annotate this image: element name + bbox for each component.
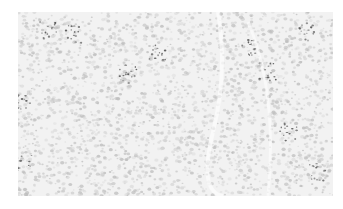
histology-image (18, 12, 333, 196)
tissue-texture (18, 12, 333, 196)
